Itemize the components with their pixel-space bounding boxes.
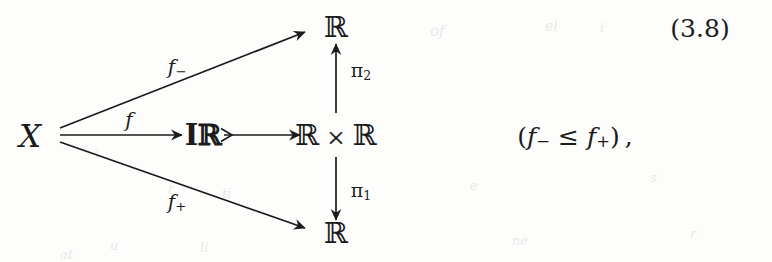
edge-label-f-plus-sub: + xyxy=(175,199,186,214)
edge-label-pi2-sub: 2 xyxy=(363,68,371,83)
node-r-times-r: ℝ×ℝ xyxy=(295,121,377,150)
edge-f-plus xyxy=(60,142,305,228)
node-r-top: ℝ xyxy=(324,13,348,42)
edge-label-f-minus-sub: − xyxy=(175,64,186,79)
edge-label-pi1-sub: 1 xyxy=(363,188,371,203)
equation-number: (3.8) xyxy=(670,16,729,41)
trailing-inequality: (f−≤f+), xyxy=(517,124,633,151)
edge-f-minus xyxy=(60,32,305,128)
inequality-right-base: f xyxy=(587,122,596,151)
inequality-open-paren: ( xyxy=(517,122,527,151)
inequality-right-sub: + xyxy=(596,132,610,151)
inequality-comma: , xyxy=(625,122,633,151)
node-x: X xyxy=(19,121,41,152)
edge-label-pi1: π1 xyxy=(351,181,371,202)
node-r-bottom: ℝ xyxy=(324,219,348,248)
edge-label-f-plus: f+ xyxy=(168,192,186,213)
inequality-left-sub: − xyxy=(536,132,550,151)
edge-label-pi1-base: π xyxy=(351,179,364,201)
node-interval-domain-ir: Iℝ xyxy=(185,121,222,150)
product-left-factor: ℝ xyxy=(295,118,319,152)
inequality-close-paren: ) xyxy=(610,122,620,151)
edge-label-pi2: π2 xyxy=(351,61,371,82)
inequality-left-base: f xyxy=(527,122,536,151)
edge-label-f-minus: f− xyxy=(168,57,186,78)
figure-canvas: ofeliittiuatliesner X ℝ Iℝ ℝ×ℝ ℝ f− xyxy=(0,0,772,262)
diagram-edges xyxy=(0,0,772,262)
edge-label-f: f xyxy=(125,110,132,130)
product-times-icon: × xyxy=(326,123,345,150)
edge-label-pi2-base: π xyxy=(351,59,364,81)
edge-embedding-monic xyxy=(221,129,300,142)
inequality-relation-icon: ≤ xyxy=(558,122,579,151)
product-right-factor: ℝ xyxy=(353,118,377,152)
edge-label-f-base: f xyxy=(125,108,132,132)
